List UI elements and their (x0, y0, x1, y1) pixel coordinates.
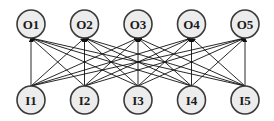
input-node-label: I3 (132, 93, 144, 108)
output-node-o2: O2 (71, 10, 99, 38)
output-node-label: O3 (130, 17, 147, 32)
input-node-i1: I1 (17, 86, 45, 114)
input-node-i5: I5 (231, 86, 259, 114)
output-node-o3: O3 (124, 10, 152, 38)
output-node-o4: O4 (178, 10, 206, 38)
input-node-i2: I2 (71, 86, 99, 114)
input-node-label: I4 (186, 93, 198, 108)
output-node-o1: O1 (17, 10, 45, 38)
input-node-i4: I4 (178, 86, 206, 114)
network-diagram: O1O2O3O4O5I1I2I3I4I5 (0, 0, 274, 121)
output-node-label: O4 (183, 17, 200, 32)
input-node-label: I5 (239, 93, 251, 108)
input-node-label: I2 (79, 93, 91, 108)
output-node-label: O1 (23, 17, 40, 32)
output-node-o5: O5 (231, 10, 259, 38)
output-node-label: O2 (76, 17, 93, 32)
input-node-i3: I3 (124, 86, 152, 114)
output-node-label: O5 (237, 17, 254, 32)
input-node-label: I1 (25, 93, 37, 108)
edges-layer (31, 38, 245, 86)
